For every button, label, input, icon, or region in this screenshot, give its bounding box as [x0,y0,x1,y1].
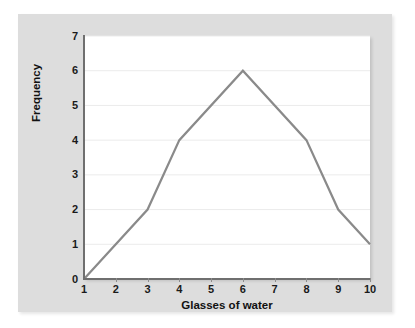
y-axis-line [83,35,85,280]
x-tick-label: 9 [325,283,351,295]
x-tick-label: 7 [262,283,288,295]
y-axis-tick-labels: 01234567 [52,0,78,328]
y-tick-label: 5 [56,100,78,111]
x-tick-label: 5 [198,283,224,295]
series-line-frequency [84,36,370,279]
x-tick-label: 3 [135,283,161,295]
x-tick-label: 6 [230,283,256,295]
y-tick-label: 7 [56,31,78,42]
x-tick-label: 10 [357,283,383,295]
figure-root: 01234567 12345678910 Glasses of water Fr… [0,0,415,328]
x-tick-label: 8 [293,283,319,295]
x-tick-mark [211,278,212,282]
x-tick-mark [338,278,339,282]
x-tick-label: 4 [166,283,192,295]
x-tick-mark [148,278,149,282]
x-tick-mark [179,278,180,282]
y-tick-label: 3 [56,169,78,180]
x-tick-mark [370,278,371,282]
y-tick-label: 6 [56,65,78,76]
series-polyline [84,71,370,279]
y-tick-label: 2 [56,204,78,215]
x-tick-label: 2 [103,283,129,295]
x-tick-mark [275,278,276,282]
x-axis-tick-labels: 12345678910 [0,283,415,299]
x-tick-mark [116,278,117,282]
x-tick-mark [306,278,307,282]
x-tick-mark [243,278,244,282]
y-axis-title: Frequency [30,64,42,122]
x-tick-label: 1 [71,283,97,295]
x-axis-title: Glasses of water [84,299,370,311]
y-tick-label: 1 [56,239,78,250]
y-tick-label: 4 [56,135,78,146]
x-axis-line [83,278,371,280]
plot-area [84,36,370,279]
